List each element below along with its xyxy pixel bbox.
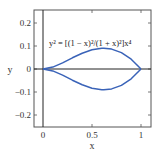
chart: 0.2 0.1 0 −0.1 −0.2 0 0.5 1 x y y² = [(1… (0, 0, 160, 156)
x-axis-label: x (90, 140, 95, 151)
y-tick-label: −0.1 (15, 87, 31, 97)
y-tick-label: −0.2 (15, 110, 31, 120)
lower-branch-curve (43, 69, 141, 90)
equation-annotation: y² = [(1 − x)²/(1 + x)²]x⁴ (49, 38, 132, 48)
y-axis-label: y (8, 64, 13, 75)
x-tick-label: 0 (41, 130, 46, 140)
x-tick-label: 1 (139, 130, 144, 140)
y-tick-label: 0.1 (20, 41, 31, 51)
x-tick-label: 0.5 (86, 130, 98, 140)
upper-branch-curve (43, 48, 141, 69)
y-tick-label: 0.2 (20, 18, 31, 28)
y-tick-label: 0 (27, 64, 32, 74)
